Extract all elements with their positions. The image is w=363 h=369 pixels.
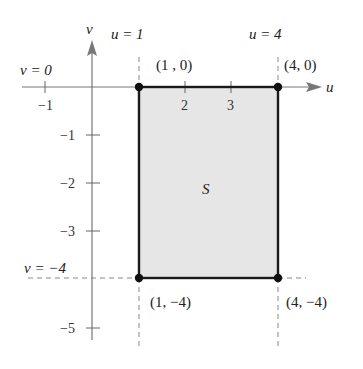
u-axis-label: u [326, 79, 334, 95]
label-v-equals-0: v = 0 [20, 62, 52, 78]
vertex-1-0 [135, 83, 143, 91]
vertex-label-4-0: (4, 0) [284, 57, 317, 74]
vertex-4-0 [274, 83, 282, 91]
vertex-label-1-0: (1 , 0) [156, 57, 192, 74]
region-label-s: S [202, 181, 210, 197]
u-tick-label-3: 3 [227, 98, 234, 113]
v-tick-label-m1: −1 [60, 128, 75, 143]
v-tick-label-m5: −5 [60, 321, 75, 336]
vertex-4-m4 [274, 274, 282, 282]
label-v-equals-m4: v = −4 [24, 260, 66, 276]
v-axis-label: v [86, 21, 93, 37]
u-tick-label-2: 2 [181, 98, 188, 113]
vertex-1-m4 [135, 274, 143, 282]
label-u-equals-1: u = 1 [111, 26, 144, 42]
v-tick-label-m2: −2 [60, 176, 75, 191]
v-tick-label-m3: −3 [60, 224, 75, 239]
u-tick-label-m1: −1 [38, 98, 53, 113]
vertex-label-4-m4: (4, −4) [286, 294, 327, 311]
label-u-equals-4: u = 4 [249, 26, 282, 42]
uv-plane-diagram: −1 2 3 −1 −2 −3 −5 u v u = 1 u = 4 v = 0… [0, 0, 363, 369]
v-tick-marks [86, 135, 100, 328]
vertex-label-1-m4: (1, −4) [150, 294, 191, 311]
